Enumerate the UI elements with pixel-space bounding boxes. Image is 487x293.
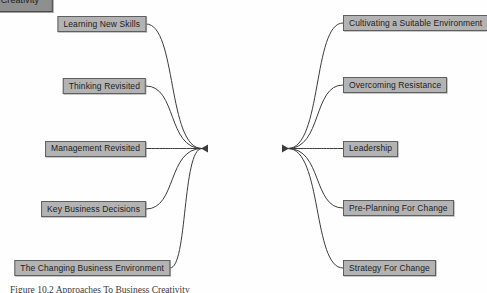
right-branch-node-2[interactable]: Leadership	[343, 141, 398, 157]
edges-left-group	[146, 24, 202, 268]
left-branch-label-1: Thinking Revisited	[69, 82, 140, 91]
figure-caption: Figure 10.2 Approaches To Business Creat…	[10, 285, 190, 293]
right-branch-node-0[interactable]: Cultivating a Suitable Environment	[343, 15, 487, 31]
left-branch-node-0[interactable]: Learning New Skills	[57, 16, 146, 32]
edge-right-0	[288, 23, 343, 149]
left-branch-label-2: Management Revisited	[51, 144, 140, 153]
right-branch-label-0: Cultivating a Suitable Environment	[349, 19, 482, 28]
center-node-label: Business Creativity	[0, 0, 39, 5]
arrowhead-left	[201, 145, 208, 153]
right-branch-node-1[interactable]: Overcoming Resistance	[343, 77, 447, 93]
arrowheads-group	[201, 145, 289, 153]
arrowhead-right	[282, 145, 289, 153]
left-branch-node-1[interactable]: Thinking Revisited	[63, 78, 146, 94]
left-branch-node-4[interactable]: The Changing Business Environment	[14, 260, 170, 276]
mind-map-diagram: Learning New SkillsThinking RevisitedMan…	[0, 0, 487, 293]
left-branch-label-0: Learning New Skills	[63, 20, 140, 29]
left-branch-node-2[interactable]: Management Revisited	[45, 141, 146, 157]
edge-left-4	[170, 149, 202, 269]
edge-right-4	[288, 149, 343, 269]
right-branch-node-4[interactable]: Strategy For Change	[343, 260, 436, 276]
left-branch-label-4: The Changing Business Environment	[20, 264, 164, 273]
edges-right-group	[288, 23, 343, 268]
right-branch-node-3[interactable]: Pre-Planning For Change	[343, 200, 454, 216]
right-branch-label-2: Leadership	[349, 144, 392, 153]
center-node-business-creativity[interactable]: Business Creativity	[0, 0, 53, 12]
right-branch-label-4: Strategy For Change	[349, 264, 430, 273]
right-branch-label-3: Pre-Planning For Change	[349, 204, 448, 213]
right-branch-label-1: Overcoming Resistance	[349, 81, 441, 90]
edge-left-0	[146, 24, 202, 149]
left-branch-node-3[interactable]: Key Business Decisions	[41, 201, 146, 217]
left-branch-label-3: Key Business Decisions	[47, 205, 140, 214]
